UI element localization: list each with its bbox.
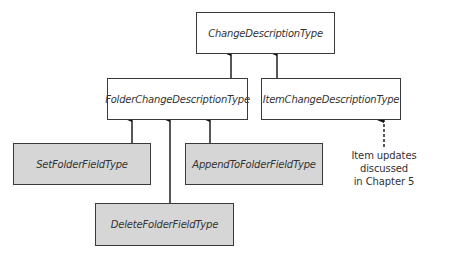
- node-label: ItemChangeDescriptionType: [263, 94, 400, 105]
- node-label: FolderChangeDescriptionType: [105, 94, 250, 105]
- node-label: ChangeDescriptionType: [208, 28, 323, 39]
- node-folder-change-description-type: FolderChangeDescriptionType: [107, 78, 248, 120]
- node-label: SetFolderFieldType: [36, 159, 128, 170]
- note-line-1: Item updates discussed: [328, 149, 440, 175]
- node-set-folder-field-type: SetFolderFieldType: [13, 143, 151, 185]
- node-label: DeleteFolderFieldType: [111, 219, 218, 230]
- node-delete-folder-field-type: DeleteFolderFieldType: [95, 203, 234, 246]
- chapter-note: Item updates discussed in Chapter 5: [328, 149, 440, 188]
- note-line-2: in Chapter 5: [328, 175, 440, 188]
- node-change-description-type: ChangeDescriptionType: [196, 12, 335, 54]
- node-append-to-folder-field-type: AppendToFolderFieldType: [185, 143, 323, 185]
- node-item-change-description-type: ItemChangeDescriptionType: [261, 78, 401, 120]
- node-label: AppendToFolderFieldType: [192, 159, 316, 170]
